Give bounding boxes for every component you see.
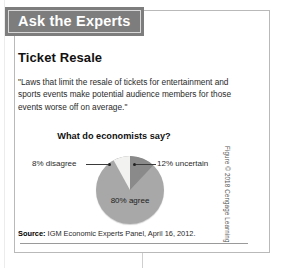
pie-label-agree: 80% agree bbox=[96, 196, 164, 205]
source-line: Source: IGM Economic Experts Panel, Apri… bbox=[18, 229, 195, 238]
chart-heading: What do economists say? bbox=[0, 131, 228, 141]
leader-line-uncertain bbox=[136, 164, 156, 165]
source-divider bbox=[20, 243, 248, 244]
ask-the-experts-banner: Ask the Experts bbox=[5, 7, 144, 36]
page-title: Ticket Resale bbox=[18, 50, 102, 65]
banner-inner-border: Ask the Experts bbox=[8, 10, 141, 33]
leader-line-disagree bbox=[86, 164, 108, 165]
source-text: IGM Economic Experts Panel, April 16, 20… bbox=[48, 229, 196, 238]
banner-title: Ask the Experts bbox=[18, 13, 131, 29]
pie-callout-uncertain: 12% uncertain bbox=[157, 159, 208, 168]
figure-stem-line bbox=[142, 253, 143, 268]
leader-dot-uncertain bbox=[133, 163, 136, 166]
leader-dot-disagree bbox=[108, 163, 111, 166]
survey-statement-quote: "Laws that limit the resale of tickets f… bbox=[18, 76, 234, 113]
source-label: Source: bbox=[18, 229, 46, 238]
pie-callout-disagree: 8% disagree bbox=[32, 159, 76, 168]
copyright-credit: Figure © 2018 Cengage Learning bbox=[224, 146, 231, 236]
pie-chart: 80% agree bbox=[96, 156, 164, 224]
